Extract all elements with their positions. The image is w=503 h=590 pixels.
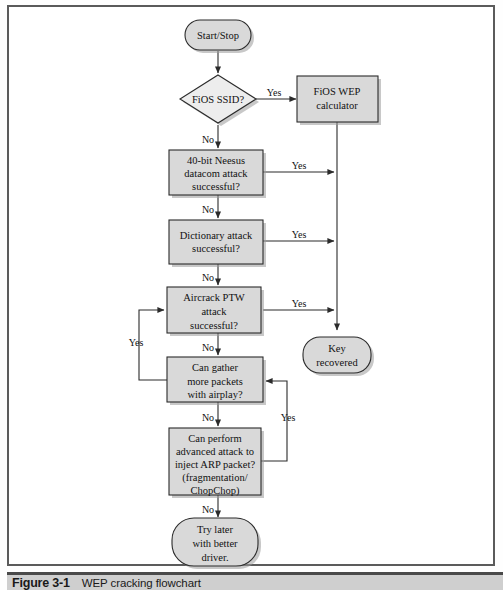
- node-dictionary-line2: successful?: [192, 243, 240, 254]
- node-gather-line3: with airplay?: [187, 389, 242, 400]
- edge-label-fios-yes: Yes: [267, 87, 282, 98]
- node-start-stop-label: Start/Stop: [197, 30, 239, 41]
- edge-label-dictionary-no: No: [202, 272, 214, 283]
- node-fios-calc-line2: calculator: [316, 100, 358, 111]
- node-advanced-arp-attack[interactable]: Can perform advanced attack to inject AR…: [169, 428, 264, 498]
- edge-label-gather-yes: Yes: [129, 337, 144, 348]
- node-neesus-line1: 40-bit Neesus: [187, 155, 245, 166]
- node-aircrack-line3: successful?: [190, 320, 238, 331]
- node-dictionary-line1: Dictionary attack: [180, 230, 253, 241]
- node-try-later[interactable]: Try later with better driver.: [172, 518, 261, 569]
- node-advanced-line3: inject ARP packet?: [175, 459, 255, 470]
- node-advanced-line5: ChopChop): [190, 485, 240, 497]
- edge-label-advanced-no: No: [202, 504, 214, 515]
- node-fios-calc-line1: FiOS WEP: [314, 86, 361, 97]
- node-key-line1: Key: [328, 343, 346, 354]
- node-advanced-line4: (fragmentation/: [182, 472, 247, 484]
- node-aircrack-ptw-attack[interactable]: Aircrack PTW attack successful?: [167, 287, 264, 336]
- edge-label-fios-no: No: [202, 134, 214, 145]
- node-gather-line2: more packets: [187, 376, 243, 387]
- node-key-line2: recovered: [316, 357, 358, 368]
- node-can-gather-packets[interactable]: Can gather more packets with airplay?: [167, 357, 266, 405]
- node-fios-ssid-decision[interactable]: FiOS SSID?: [180, 75, 259, 126]
- node-neesus-datacom-attack[interactable]: 40-bit Neesus datacom attack successful?: [169, 150, 266, 198]
- node-gather-line1: Can gather: [192, 362, 238, 373]
- wep-cracking-flowchart: Yes No Yes No Yes No Yes No Yes No Yes N…: [0, 0, 503, 590]
- figure-caption-number: Figure 3-1: [12, 576, 70, 590]
- node-advanced-line1: Can perform: [188, 433, 241, 444]
- edge-label-aircrack-no: No: [202, 342, 214, 353]
- node-dictionary-attack[interactable]: Dictionary attack successful?: [169, 220, 266, 267]
- node-fios-wep-calculator[interactable]: FiOS WEP calculator: [297, 76, 381, 125]
- node-aircrack-line1: Aircrack PTW: [183, 292, 245, 303]
- node-fios-ssid-label: FiOS SSID?: [192, 94, 245, 105]
- edge-label-neesus-no: No: [202, 204, 214, 215]
- node-advanced-line2: advanced attack to: [176, 446, 254, 457]
- node-neesus-line2: datacom attack: [184, 168, 248, 179]
- node-trylater-line2: with better: [192, 538, 238, 549]
- node-trylater-line1: Try later: [197, 524, 234, 535]
- node-start-stop[interactable]: Start/Stop: [185, 20, 254, 53]
- node-aircrack-line2: attack: [201, 306, 227, 317]
- node-neesus-line3: successful?: [192, 181, 240, 192]
- node-key-recovered[interactable]: Key recovered: [303, 337, 374, 376]
- figure-container: Yes No Yes No Yes No Yes No Yes No Yes N…: [0, 0, 503, 590]
- figure-caption-text: WEP cracking flowchart: [82, 577, 201, 589]
- figure-caption-bar: Figure 3-1 WEP cracking flowchart: [7, 572, 503, 590]
- edge-label-dictionary-yes: Yes: [292, 229, 307, 240]
- edge-label-gather-no: No: [202, 412, 214, 423]
- edge-label-aircrack-yes: Yes: [292, 298, 307, 309]
- node-trylater-line3: driver.: [201, 552, 228, 563]
- edge-label-neesus-yes: Yes: [292, 160, 307, 171]
- edge-label-advanced-yes: Yes: [281, 412, 296, 423]
